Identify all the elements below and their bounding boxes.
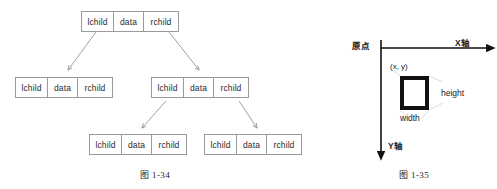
leader-line-bottomright-down [421,110,429,119]
figure-sheet: lchild data rchild lchild data rchild lc… [0,0,497,189]
leader-line-topright [429,76,443,82]
height-label: height [441,88,464,98]
y-axis-label: Y轴 [388,139,403,151]
width-label: width [400,113,420,123]
leader-line-bottomright [429,103,443,110]
x-axis-label: X轴 [455,36,470,48]
point-coordinate-label: (x, y) [390,62,408,71]
rectangle-shape [400,76,429,110]
figure-caption-1-35: 图 1-35 [399,168,429,181]
origin-label: 原点 [352,39,370,51]
